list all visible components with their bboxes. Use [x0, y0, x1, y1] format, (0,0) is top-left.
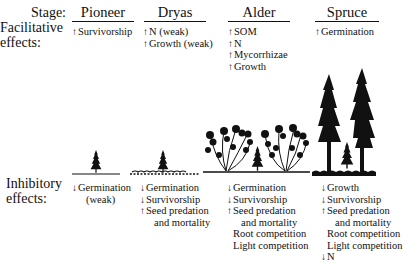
effect-text: Germination	[146, 182, 199, 193]
effect-text: and mortality	[154, 217, 210, 228]
mature-spruce-left-icon	[318, 74, 341, 172]
effect-text: Light competition	[233, 240, 309, 251]
effect-item: ↑Seed predation	[321, 205, 403, 217]
effect-item: ↓Survivorship	[321, 194, 403, 206]
effect-text: Germination	[233, 182, 286, 193]
effect-text: (weak)	[86, 194, 115, 205]
dryas-illustration	[130, 150, 200, 174]
pioneer-illustration	[72, 150, 120, 174]
effect-text: Light competition	[327, 240, 403, 251]
inhibitory-effects-dryas: ↓Germination ↓Survivorship ↑Seed predati…	[140, 182, 210, 228]
alder-illustration	[203, 124, 310, 172]
inhibitory-effects-alder: ↓Germination ↓Survivorship ↑Seed predati…	[227, 182, 309, 251]
inhibitory-effects-pioneer: ↓Germination (weak)	[72, 182, 131, 205]
effect-item: ↓N	[321, 251, 403, 263]
effect-text: Survivorship	[327, 194, 381, 205]
effect-item: Root competition	[227, 228, 309, 240]
effect-item: and mortality	[140, 217, 210, 229]
effect-item: ↓Survivorship	[140, 194, 210, 206]
effect-item: Light competition	[227, 240, 309, 252]
effect-text: Survivorship	[233, 194, 287, 205]
spruce-seedling-icon	[158, 150, 169, 173]
mature-spruce-right-icon	[350, 68, 375, 172]
effect-item: ↓Germination	[72, 182, 131, 194]
effect-item: ↓Growth	[321, 182, 403, 194]
effect-item: ↓Germination	[140, 182, 210, 194]
spruce-illustration	[312, 68, 376, 176]
effect-item: and mortality	[321, 217, 403, 229]
spruce-seedling-icon	[252, 146, 264, 171]
effect-item: (weak)	[72, 194, 131, 206]
effect-text: Seed predation	[146, 205, 209, 216]
inhibitory-effects-spruce: ↓Growth ↓Survivorship ↑Seed predation an…	[321, 182, 403, 263]
effect-item: ↑Seed predation	[140, 205, 210, 217]
alder-foliage-right	[261, 124, 309, 158]
effect-item: ↓Germination	[227, 182, 309, 194]
effect-item: Root competition	[321, 228, 403, 240]
spruce-seedling-icon	[91, 150, 102, 173]
effect-text: Growth	[327, 182, 359, 193]
effect-text: Survivorship	[146, 194, 200, 205]
effect-item: Light competition	[321, 240, 403, 252]
effect-text: and mortality	[335, 217, 391, 228]
effect-text: Germination	[78, 182, 131, 193]
effect-text: Seed predation	[233, 205, 296, 216]
effect-text: Seed predation	[327, 205, 390, 216]
effect-item: ↓Survivorship	[227, 194, 309, 206]
effect-text: Root competition	[327, 228, 400, 239]
effect-text: N	[327, 251, 335, 262]
effect-item: ↑Seed predation	[227, 205, 309, 217]
effect-text: Root competition	[233, 228, 306, 239]
effect-item: and mortality	[227, 217, 309, 229]
spruce-seedling-icon	[341, 142, 354, 169]
effect-text: and mortality	[241, 217, 297, 228]
